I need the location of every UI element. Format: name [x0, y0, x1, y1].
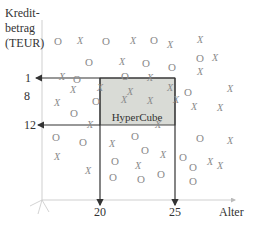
- circle-marker: O: [150, 35, 158, 45]
- cross-marker: X: [119, 57, 125, 67]
- cross-marker: X: [135, 161, 141, 171]
- circle-marker: O: [189, 176, 197, 186]
- cross-marker: X: [167, 40, 173, 50]
- cross-marker: X: [127, 87, 133, 97]
- circle-marker: O: [121, 71, 129, 81]
- cross-marker: X: [70, 85, 76, 95]
- circle-marker: O: [102, 36, 110, 46]
- circle-marker: O: [85, 57, 93, 67]
- circle-marker: O: [54, 36, 62, 46]
- cross-marker: X: [97, 83, 103, 93]
- cross-marker: X: [227, 84, 233, 94]
- x-axis-label: Alter: [219, 206, 244, 219]
- y-tick-lower: 12: [24, 119, 36, 132]
- cross-marker: X: [197, 35, 203, 45]
- circle-marker: O: [196, 133, 204, 143]
- cross-marker: X: [173, 95, 179, 105]
- circle-marker: O: [73, 74, 81, 84]
- cross-marker: X: [85, 166, 91, 176]
- hypercube-label: HyperCube: [112, 111, 163, 123]
- circle-marker: O: [168, 62, 176, 72]
- cross-marker: X: [121, 95, 127, 105]
- cross-marker: X: [197, 67, 203, 77]
- y-tick-upper-line-1: 1: [25, 72, 31, 85]
- x-tick-left: 20: [94, 206, 106, 219]
- cross-marker: X: [217, 103, 223, 113]
- circle-marker: O: [196, 53, 204, 63]
- circle-marker: O: [52, 132, 60, 142]
- circle-marker: O: [70, 108, 78, 118]
- cross-marker: X: [147, 73, 153, 83]
- cross-marker: X: [109, 139, 115, 149]
- circle-marker: O: [141, 145, 149, 155]
- circle-marker: O: [184, 87, 192, 97]
- circle-marker: O: [131, 131, 139, 141]
- cross-marker: X: [147, 96, 153, 106]
- circle-marker: O: [137, 174, 145, 184]
- cross-marker: X: [130, 36, 136, 46]
- circle-marker: O: [179, 152, 187, 162]
- y-tick-upper-line-2: 8: [24, 90, 30, 103]
- cross-marker: X: [87, 120, 93, 130]
- origin-fan-icon: [30, 200, 49, 214]
- cross-marker: X: [207, 157, 213, 167]
- cross-marker: X: [77, 36, 83, 46]
- circle-marker: O: [109, 172, 117, 182]
- y-axis-label-line-2: betrag: [5, 22, 35, 35]
- circle-marker: O: [92, 96, 100, 106]
- x-tick-right: 25: [169, 206, 181, 219]
- circle-marker: O: [79, 137, 87, 147]
- cross-marker: X: [227, 136, 233, 146]
- circle-marker: O: [157, 169, 165, 179]
- circle-marker: O: [189, 162, 197, 172]
- cross-marker: X: [212, 53, 218, 63]
- cross-marker: X: [54, 98, 60, 108]
- cross-marker: X: [54, 152, 60, 162]
- circle-marker: O: [111, 156, 119, 166]
- cross-marker: X: [191, 102, 197, 112]
- cross-marker: X: [160, 150, 166, 160]
- cross-marker: X: [167, 83, 173, 93]
- y-axis-label-line-1: Kredit-: [5, 7, 40, 20]
- y-axis-label-line-3: (TEUR): [5, 37, 44, 50]
- cross-marker: X: [217, 161, 223, 171]
- cross-marker: X: [59, 72, 65, 82]
- circle-marker: O: [142, 58, 150, 68]
